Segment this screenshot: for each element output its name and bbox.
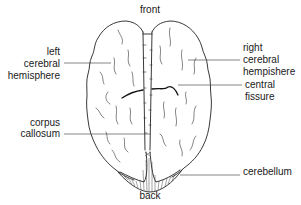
corpus-callosum-label: corpus callosum (21, 117, 60, 139)
svg-text:hempishere: hempishere (243, 66, 296, 77)
gyri-detail (96, 28, 196, 162)
cerebellum-label: cerebellum (243, 166, 292, 177)
svg-text:hemisphere: hemisphere (8, 70, 61, 81)
brain-diagram: front back (0, 0, 301, 205)
svg-text:left: left (47, 46, 61, 57)
svg-text:corpus: corpus (30, 117, 60, 128)
right-hemisphere-label: right cerebral hempishere (243, 42, 296, 77)
svg-text:cerebral: cerebral (24, 58, 60, 69)
right-central-fissure (152, 87, 178, 95)
svg-text:callosum: callosum (21, 128, 60, 139)
left-hemisphere-label: left cerebral hemisphere (8, 46, 61, 81)
svg-text:right: right (243, 42, 263, 53)
svg-text:fissure: fissure (245, 91, 275, 102)
front-label: front (140, 4, 160, 15)
central-fissure-label: central fissure (245, 79, 275, 102)
right-hemisphere-outline (152, 21, 211, 177)
svg-text:central: central (245, 79, 275, 90)
cerebellum-region (118, 152, 182, 192)
svg-text:cerebral: cerebral (243, 54, 279, 65)
left-hemisphere-outline (87, 21, 143, 180)
left-central-fissure (122, 90, 143, 98)
corpus-callosum-strip (143, 32, 152, 150)
